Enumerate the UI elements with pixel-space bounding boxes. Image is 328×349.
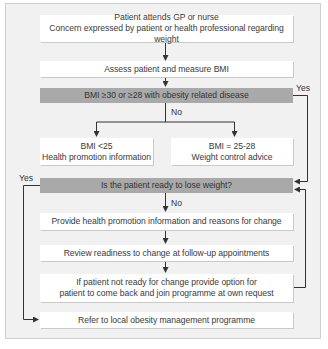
node-assess: Assess patient and measure BMI: [40, 61, 293, 77]
node-start-line2: Concern expressed by patient or health p…: [40, 23, 293, 45]
node-not-ready-line2: patient to come back and join programme …: [59, 288, 273, 299]
node-bmi-mid-line1: BMI = 25-28: [209, 141, 256, 152]
edge-label-ready-no: No: [171, 198, 182, 208]
node-bmi-low-line2: Health promotion information: [42, 152, 151, 163]
node-refer: Refer to local obesity management progra…: [40, 312, 293, 328]
node-assess-text: Assess patient and measure BMI: [104, 64, 229, 75]
node-bmi-low: BMI <25 Health promotion information: [40, 138, 153, 165]
node-bmi-mid: BMI = 25-28 Weight control advice: [171, 138, 293, 165]
decision-bmi-text: BMI ≥30 or ≥28 with obesity related dise…: [84, 90, 248, 101]
node-start: Patient attends GP or nurse Concern expr…: [40, 15, 293, 42]
node-provide-info-text: Provide health promotion information and…: [51, 216, 281, 227]
edge-label-bmi-no: No: [171, 107, 182, 117]
node-provide-info: Provide health promotion information and…: [40, 213, 293, 230]
node-review: Review readiness to change at follow-up …: [40, 245, 293, 261]
node-review-text: Review readiness to change at follow-up …: [64, 248, 270, 259]
decision-ready-text: Is the patient ready to lose weight?: [101, 180, 232, 191]
node-not-ready-line1: If patient not ready for change provide …: [76, 277, 256, 288]
node-refer-text: Refer to local obesity management progra…: [78, 315, 255, 326]
edge-label-bmi-yes: Yes: [296, 83, 310, 93]
node-start-line1: Patient attends GP or nurse: [114, 12, 219, 23]
decision-ready: Is the patient ready to lose weight?: [40, 178, 293, 193]
node-bmi-low-line1: BMI <25: [81, 141, 113, 152]
edge-label-ready-yes: Yes: [19, 173, 33, 183]
decision-bmi: BMI ≥30 or ≥28 with obesity related dise…: [40, 88, 293, 103]
node-bmi-mid-line2: Weight control advice: [192, 152, 273, 163]
node-not-ready: If patient not ready for change provide …: [40, 274, 293, 302]
